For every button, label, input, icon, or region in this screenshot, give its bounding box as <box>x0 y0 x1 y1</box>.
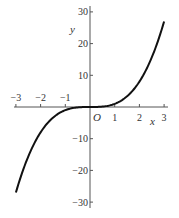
cubic-plot: −3−2−1123−30−20−10102030 y x O <box>0 0 179 218</box>
x-tick-label: 1 <box>112 112 117 123</box>
x-tick-label: −1 <box>60 92 71 103</box>
y-tick-label: −30 <box>72 197 88 208</box>
x-tick-label: 2 <box>137 112 142 123</box>
y-tick-label: 20 <box>78 38 88 49</box>
y-tick-label: 30 <box>78 6 88 17</box>
x-tick-label: −2 <box>35 92 46 103</box>
y-tick-label: 10 <box>78 70 88 81</box>
origin-label: O <box>93 111 101 123</box>
x-tick-label: −3 <box>11 92 22 103</box>
x-tick-label: 3 <box>162 112 167 123</box>
y-axis-label: y <box>69 23 75 35</box>
x-axis-label: x <box>149 115 155 127</box>
y-tick-label: −20 <box>72 165 88 176</box>
y-tick-label: −10 <box>72 133 88 144</box>
